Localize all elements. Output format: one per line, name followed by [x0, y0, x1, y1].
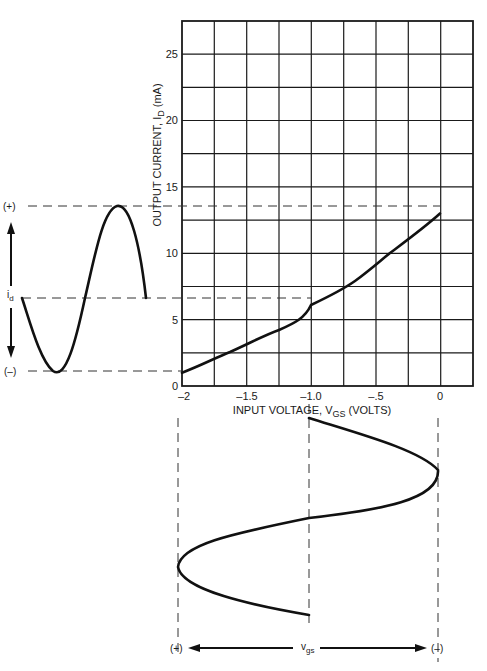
x-tick-minus-1-0: –1.0: [300, 390, 321, 402]
fet-transfer-diagram: 0 5 10 15 20 25 –2 –1.5 –1.0 –.5 0 INPUT…: [0, 0, 487, 671]
y-tick-10: 10: [166, 247, 178, 259]
input-projection-lines: [178, 404, 438, 662]
x-tick-0: 0: [437, 390, 443, 402]
id-label: id: [7, 289, 14, 303]
x-tick-minus-1-5: –1.5: [236, 390, 257, 402]
id-plus-label: (+): [3, 201, 16, 212]
id-minus-label: (–): [4, 366, 16, 377]
y-axis-ticks: 0 5 10 15 20 25: [166, 48, 178, 392]
input-voltage-waveform: [178, 418, 438, 615]
vgs-label: vgs: [301, 641, 314, 655]
output-projection-lines: [22, 206, 440, 371]
vgs-minus-label: (–): [431, 643, 443, 654]
x-axis-ticks: –2 –1.5 –1.0 –.5 0: [178, 390, 443, 402]
y-tick-5: 5: [172, 314, 178, 326]
vgs-plus-label: (+): [170, 643, 183, 654]
y-axis-label: OUTPUT CURRENT, ID (mA): [151, 83, 166, 226]
chart-grid: [182, 21, 473, 386]
y-tick-25: 25: [166, 48, 178, 60]
x-tick-minus-0-5: –.5: [368, 390, 383, 402]
output-current-waveform: [22, 206, 146, 372]
x-axis-label: INPUT VOLTAGE, VGS (VOLTS): [233, 404, 391, 419]
y-tick-15: 15: [166, 181, 178, 193]
x-tick-minus-2: –2: [178, 390, 190, 402]
y-tick-20: 20: [166, 114, 178, 126]
